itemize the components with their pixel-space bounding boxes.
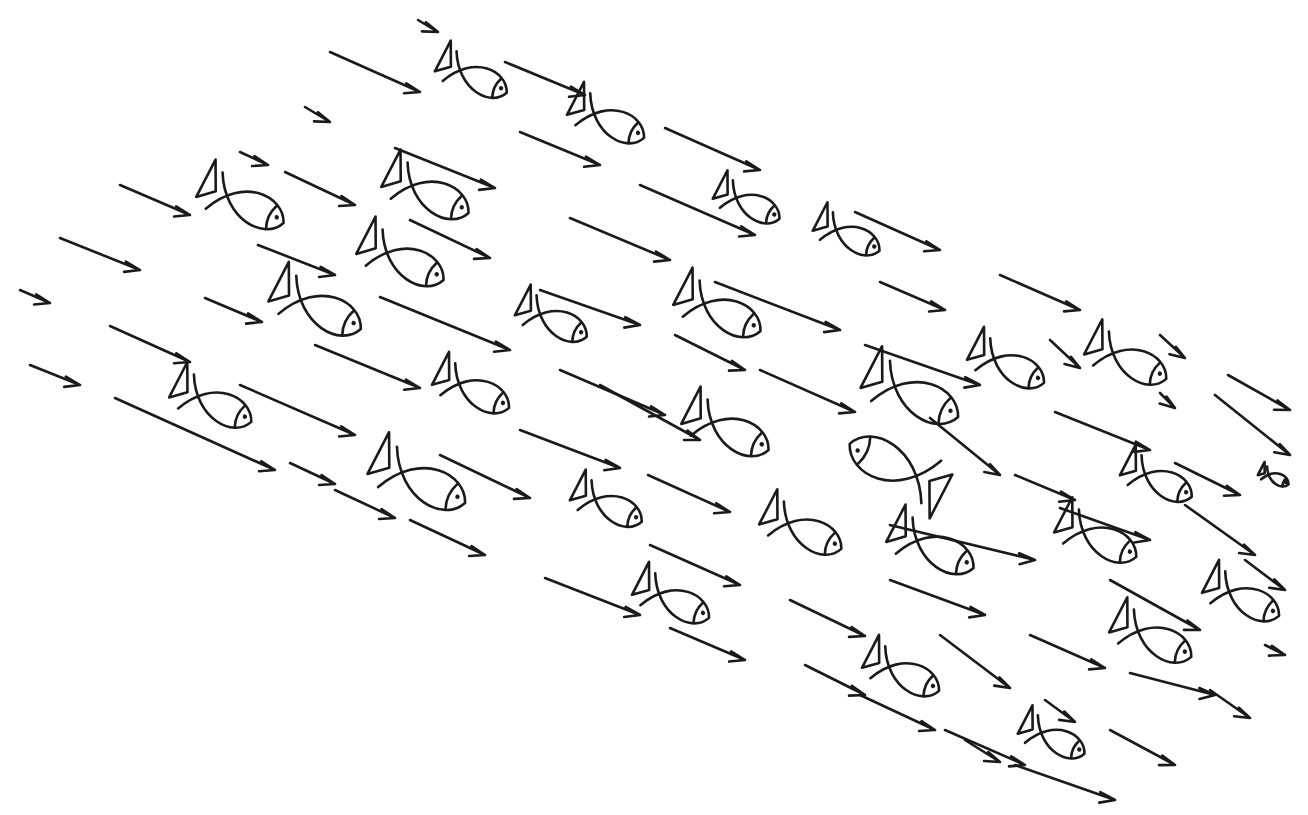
arrow-icon [330,52,420,93]
arrow-icon [545,578,640,617]
arrow-icon [715,282,840,332]
arrow-icon [1228,375,1290,410]
arrow-icon [930,418,1000,475]
fish-icon [965,326,1055,398]
arrow-icon [505,62,585,97]
arrow-icon [418,20,438,32]
fish-icon [1106,597,1202,674]
arrow-icon [665,128,760,171]
arrow-icon [1015,765,1115,803]
arrow-icon [600,385,700,440]
flow-arrows [20,20,1290,803]
fish-icon [1081,319,1177,396]
arrow-icon [1265,645,1285,656]
fish-icon [756,489,852,566]
arrow-icon [1160,335,1185,358]
arrow-icon [380,297,510,352]
arrow-icon [640,185,755,236]
arrow-icon [110,326,190,363]
arrow-icon [675,335,745,371]
arrow-icon [335,490,395,519]
arrow-icon [285,172,355,206]
fish-icon [568,469,652,537]
arrow-icon [315,345,420,390]
arrow-icon [20,290,50,304]
arrow-icon [648,475,730,513]
arrow-icon [880,282,945,311]
arrow-icon [570,218,670,262]
arrow-icon [540,290,640,328]
arrow-icon [760,370,855,413]
arrow-icon [305,107,330,122]
arrow-icon [290,463,335,485]
arrow-icon [860,695,935,731]
arrow-icon [1185,505,1255,555]
fish-icon [678,386,780,468]
arrow-icon [805,665,865,696]
arrow-icon [115,398,275,471]
fish-icon [565,81,655,153]
fish-icon [433,40,517,108]
arrow-icon [1000,275,1080,311]
arrow-icon [1045,700,1075,722]
fish-icon [430,351,520,423]
fish-icon [1118,444,1202,512]
fish-school-illustration [0,0,1308,815]
arrow-icon [890,580,985,617]
arrow-icon [60,238,140,272]
arrow-icon [120,185,190,217]
arrow-icon [1030,635,1105,669]
fish-school [166,40,1292,768]
arrow-icon [520,430,620,470]
fish-icon [811,202,889,265]
arrow-icon [410,220,490,259]
fish-icon [353,216,455,298]
fish-icon [193,159,295,241]
arrow-icon [1050,340,1080,368]
arrow-icon [940,635,1010,688]
fish-icon [1200,559,1290,631]
fish-icon [670,267,772,349]
arrow-icon [240,152,268,166]
fish-icon [630,561,720,633]
fish-icon [711,170,789,233]
arrow-icon [520,132,600,167]
arrow-icon [1160,393,1175,408]
arrow-icon [1210,690,1250,718]
arrow-icon [240,385,355,436]
fish-icon [265,261,373,348]
arrow-icon [30,365,80,387]
arrow-icon [1245,560,1285,590]
fish-icon [835,423,955,520]
fish-icon [857,345,971,437]
arrow-icon [790,600,865,637]
arrow-icon [1015,475,1075,502]
arrow-icon [1110,730,1175,765]
fish-icon [1257,462,1293,491]
arrow-icon [410,520,485,556]
fish-icon [1016,705,1094,768]
fish-icon [860,634,950,706]
arrow-icon [650,545,740,586]
arrow-icon [670,628,745,662]
arrow-icon [1130,673,1215,699]
arrow-icon [258,245,335,277]
arrow-icon [205,298,262,324]
